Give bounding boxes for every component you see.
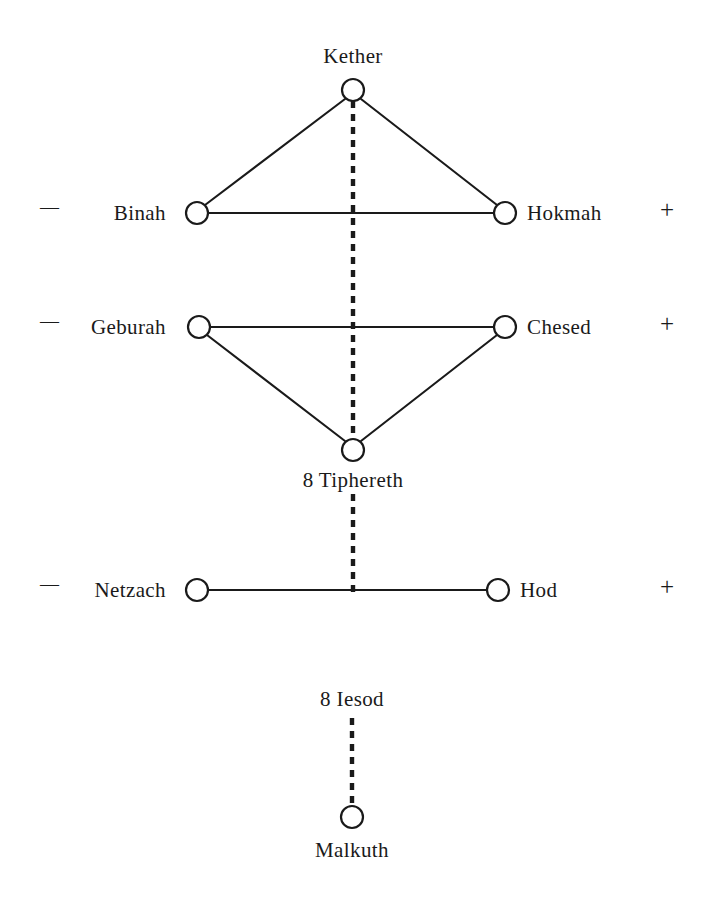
polarity-minus-row-netzach-hod: — [40, 574, 59, 593]
sephirah-node-geburah [188, 316, 210, 338]
node-label-chesed: Chesed [527, 317, 591, 338]
path-kether-hokmah [361, 99, 497, 205]
node-label-binah: Binah [114, 203, 166, 224]
node-label-netzach: Netzach [94, 580, 166, 601]
node-label-iesod: 8 Iesod [0, 689, 704, 710]
sephirah-node-kether [342, 79, 364, 101]
tree-of-life-diagram: KetherBinahHokmahGeburahChesed8 Tipheret… [0, 0, 707, 899]
node-label-geburah: Geburah [91, 317, 166, 338]
path-geburah-tiphereth [207, 335, 345, 441]
polarity-plus-row-binah-hokmah: + [660, 197, 674, 222]
sephirah-node-binah [186, 202, 208, 224]
polarity-plus-row-geburah-chesed: + [660, 311, 674, 336]
polarity-plus-row-netzach-hod: + [660, 574, 674, 599]
sephirah-node-hod [487, 579, 509, 601]
sephiroth-nodes-group [186, 79, 516, 828]
node-label-kether: Kether [0, 46, 706, 67]
polarity-minus-row-binah-hokmah: — [40, 197, 59, 216]
tree-of-life-canvas [0, 0, 707, 899]
path-kether-binah [205, 99, 345, 205]
node-label-malkuth: Malkuth [0, 840, 704, 861]
node-label-hokmah: Hokmah [527, 203, 602, 224]
path-chesed-tiphereth [361, 335, 497, 441]
sephirah-node-hokmah [494, 202, 516, 224]
sephirah-node-chesed [494, 316, 516, 338]
node-label-tiphereth: 8 Tiphereth [0, 470, 706, 491]
node-label-hod: Hod [520, 580, 557, 601]
sephirah-node-tiphereth [342, 439, 364, 461]
sephirah-node-malkuth [341, 806, 363, 828]
polarity-minus-row-geburah-chesed: — [40, 311, 59, 330]
sephirah-node-netzach [186, 579, 208, 601]
